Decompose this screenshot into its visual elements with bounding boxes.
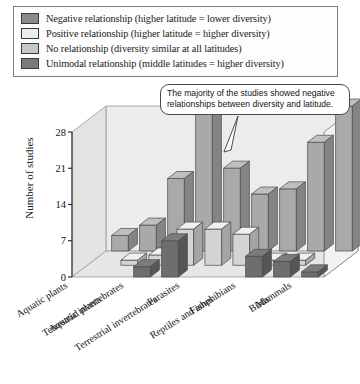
chart-canvas: 07142128Aquatic plantsTerrestrial plants…	[0, 0, 360, 384]
y-axis-tick-label: 14	[56, 199, 67, 210]
x-axis-tick-label: Mammals	[253, 279, 293, 310]
negative-bar-front	[112, 235, 129, 251]
y-axis-title: Number of studies	[23, 137, 35, 218]
positive-bar-front	[121, 260, 138, 265]
unimodal-bar-front	[134, 267, 151, 277]
positive-bar-side	[222, 222, 231, 265]
negative-bar-side	[268, 187, 277, 251]
unimodal-bar-front	[246, 256, 263, 277]
bar-chart: 07142128Aquatic plantsTerrestrial plants…	[0, 0, 360, 384]
unimodal-bar-front	[274, 261, 291, 277]
negative-bar-front	[280, 189, 297, 251]
y-axis-tick-label: 28	[56, 127, 67, 138]
unimodal-bar-front	[302, 272, 319, 277]
callout-annotation: The majority of the studies showed negat…	[160, 84, 350, 115]
unimodal-bar-front	[162, 241, 179, 277]
chart-left-wall	[72, 106, 106, 277]
x-axis-tick-label: Aquatic plants	[14, 279, 69, 319]
negative-bar-front	[336, 106, 353, 251]
unimodal-bar-side	[178, 234, 187, 277]
x-axis-tick-label: Parasites	[145, 279, 181, 307]
negative-bar-side	[352, 99, 360, 251]
y-axis-tick-label: 21	[56, 163, 67, 174]
positive-bar-front	[205, 229, 222, 265]
negative-bar-side	[324, 135, 333, 251]
negative-bar-front	[308, 142, 325, 251]
negative-bar-side	[296, 182, 305, 251]
callout-text: The majority of the studies showed negat…	[167, 88, 343, 110]
negative-bar-front	[140, 225, 157, 251]
y-axis-tick-label: 7	[61, 235, 66, 246]
positive-bar-side	[194, 222, 203, 265]
